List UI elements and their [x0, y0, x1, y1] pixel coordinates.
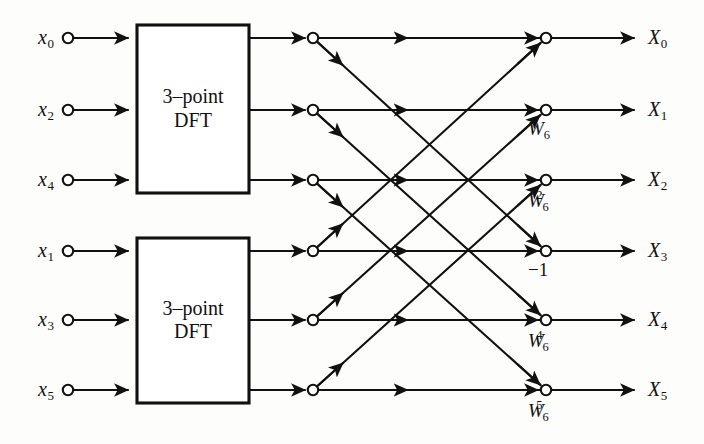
output-label-4: X4 — [648, 309, 667, 332]
twiddle-label-row-1: W6 — [528, 119, 550, 141]
output-label-base-4: X — [648, 308, 660, 330]
output-node-0 — [541, 33, 551, 43]
butterfly-edge-arrow-start-4 — [317, 293, 342, 316]
butterfly-edge-arrow-start-3 — [317, 224, 342, 247]
mid-node-1 — [308, 105, 318, 115]
output-label-2: X2 — [648, 169, 667, 192]
butterfly-edge-arrow-end-0 — [518, 225, 540, 245]
twiddle-subscript-1: 6 — [544, 128, 550, 142]
output-label-0: X0 — [648, 27, 667, 50]
output-node-2 — [541, 175, 551, 185]
butterfly-edge-arrow-end-2 — [518, 365, 540, 385]
dft-block-line1-1: 3–point — [162, 297, 223, 321]
output-label-5: X5 — [648, 379, 667, 402]
input-label-base-4: x — [38, 308, 47, 330]
output-node-1 — [541, 105, 551, 115]
dft-block-layer — [137, 25, 249, 403]
fft-flow-diagram: 3–pointDFT3–pointDFTx0x2x4x1x3x5X0X1X2X3… — [0, 0, 704, 444]
output-label-index-3: 3 — [661, 248, 668, 263]
input-node-1 — [63, 105, 73, 115]
input-label-index-4: 3 — [48, 317, 55, 332]
output-label-3: X3 — [648, 240, 667, 263]
input-label-base-3: x — [38, 239, 47, 261]
dft-block-line1-0: 3–point — [162, 85, 223, 109]
twiddle-base-1: W — [528, 118, 544, 139]
twiddle-subscript-4: 6 — [543, 340, 549, 354]
input-label-4: x3 — [38, 309, 54, 332]
butterfly-edge-arrow-start-2 — [317, 184, 342, 207]
input-label-index-0: 0 — [48, 35, 55, 50]
input-label-index-1: 2 — [48, 107, 55, 122]
output-label-base-2: X — [648, 168, 660, 190]
input-label-base-2: x — [38, 168, 47, 190]
output-label-index-4: 4 — [661, 317, 668, 332]
butterfly-edge-arrow-end-1 — [518, 295, 540, 315]
input-label-0: x0 — [38, 27, 54, 50]
input-label-3: x1 — [38, 240, 54, 263]
input-node-0 — [63, 33, 73, 43]
output-node-4 — [541, 315, 551, 325]
input-node-3 — [63, 246, 73, 256]
output-label-index-5: 5 — [661, 387, 668, 402]
butterfly-edge-arrow-start-1 — [317, 114, 342, 137]
butterfly-edge-arrow-start-5 — [317, 363, 342, 386]
input-label-base-1: x — [38, 98, 47, 120]
twiddle-label-row-5: W56 — [528, 399, 549, 423]
input-label-index-5: 5 — [48, 387, 55, 402]
output-node-5 — [541, 385, 551, 395]
twiddle-label-row-2: W26 — [528, 189, 549, 213]
butterfly-edge-arrow-start-0 — [317, 42, 342, 65]
mid-node-0 — [308, 33, 318, 43]
output-label-index-1: 1 — [661, 107, 668, 122]
signal-flow-graph-canvas — [0, 0, 704, 444]
output-label-base-1: X — [648, 98, 660, 120]
output-label-base-5: X — [648, 378, 660, 400]
input-label-5: x5 — [38, 379, 54, 402]
output-label-base-0: X — [648, 26, 660, 48]
input-label-2: x4 — [38, 169, 54, 192]
dft-block-label-1: 3–pointDFT — [162, 297, 223, 344]
mid-node-2 — [308, 175, 318, 185]
input-label-base-5: x — [38, 378, 47, 400]
twiddle-label-row-4: W46 — [528, 329, 549, 353]
dft-block-label-0: 3–pointDFT — [162, 85, 223, 132]
output-label-index-0: 0 — [661, 35, 668, 50]
input-node-2 — [63, 175, 73, 185]
output-label-base-3: X — [648, 239, 660, 261]
input-label-index-2: 4 — [48, 177, 55, 192]
twiddle-base-3: −1 — [528, 259, 548, 280]
output-node-3 — [541, 246, 551, 256]
mid-node-5 — [308, 385, 318, 395]
input-label-index-3: 1 — [48, 248, 55, 263]
twiddle-label-row-3: −1 — [528, 260, 548, 279]
mid-node-4 — [308, 315, 318, 325]
twiddle-subscript-5: 6 — [543, 410, 549, 424]
dft-block-line2-1: DFT — [162, 321, 223, 345]
input-label-base-0: x — [38, 26, 47, 48]
output-label-1: X1 — [648, 99, 667, 122]
input-node-5 — [63, 385, 73, 395]
butterfly-edge-arrow-end-3 — [518, 43, 540, 63]
input-node-4 — [63, 315, 73, 325]
dft-block-line2-0: DFT — [162, 109, 223, 133]
mid-node-3 — [308, 246, 318, 256]
output-label-index-2: 2 — [661, 177, 668, 192]
input-label-1: x2 — [38, 99, 54, 122]
twiddle-subscript-2: 6 — [543, 200, 549, 214]
